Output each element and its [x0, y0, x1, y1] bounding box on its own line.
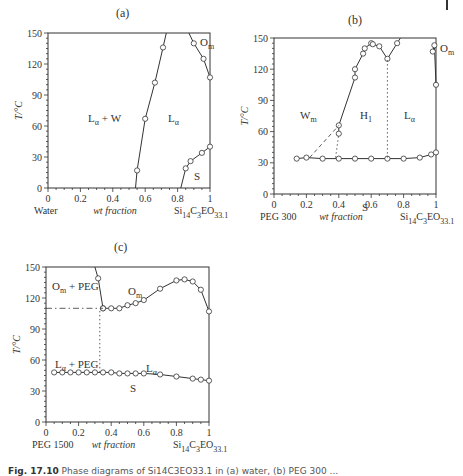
data-point-marker: [174, 278, 179, 283]
data-point-marker: [190, 376, 195, 381]
data-point-marker: [100, 370, 105, 375]
data-point-marker: [68, 370, 73, 375]
data-point-marker: [158, 286, 163, 291]
phase-diagram-c: 030609012015000.20.40.60.81T/°CPEG 1500w…: [0, 0, 463, 460]
caption-label: Fig. 17.10: [8, 466, 59, 476]
panel-c: (c) 030609012015000.20.40.60.81T/°CPEG 1…: [0, 0, 463, 460]
data-point-marker: [133, 371, 138, 376]
data-point-marker: [125, 303, 130, 308]
data-point-marker: [109, 306, 114, 311]
data-point-marker: [92, 370, 97, 375]
y-tick-label: 120: [25, 293, 40, 304]
data-point-marker: [84, 370, 89, 375]
phase-region-label: Lα: [146, 362, 158, 377]
data-point-marker: [174, 374, 179, 379]
phase-region-label: Om: [128, 285, 143, 300]
data-point-marker: [109, 370, 114, 375]
data-point-marker: [182, 277, 187, 282]
phase-region-label: Om + PEG: [52, 280, 99, 295]
figure-caption: Fig. 17.10 Phase diagrams of Si14C3EO33.…: [8, 466, 458, 476]
y-tick-label: 30: [30, 386, 40, 397]
data-point-marker: [198, 287, 203, 292]
data-point-marker: [52, 370, 57, 375]
data-point-marker: [76, 370, 81, 375]
phase-region-label: S: [130, 382, 136, 394]
x-axis-title: wt fraction: [92, 439, 136, 450]
x-tick-label: 0.8: [170, 427, 183, 438]
data-point-marker: [158, 372, 163, 377]
data-point-marker: [117, 371, 122, 376]
data-point-marker: [117, 306, 122, 311]
x-tick-label: 0.4: [105, 427, 118, 438]
data-point-marker: [198, 377, 203, 382]
y-axis-title: T/°C: [11, 335, 22, 354]
data-point-marker: [133, 301, 138, 306]
x-tick-label: 0.2: [72, 427, 85, 438]
x-axis-left-label: PEG 1500: [32, 439, 73, 450]
x-tick-label: 0: [44, 427, 49, 438]
data-point-marker: [125, 371, 130, 376]
y-tick-label: 60: [30, 355, 40, 366]
y-tick-label: 150: [25, 262, 40, 273]
y-tick-label: 0: [35, 417, 40, 428]
caption-text: Phase diagrams of Si14C3EO33.1 in (a) wa…: [62, 466, 339, 476]
data-point-marker: [206, 309, 211, 314]
x-tick-label: 0.6: [138, 427, 151, 438]
x-axis-right-label: Si14C3EO33.1: [173, 439, 227, 454]
y-tick-label: 90: [30, 324, 40, 335]
data-point-marker: [206, 378, 211, 383]
data-point-marker: [190, 279, 195, 284]
x-tick-label: 1: [207, 427, 212, 438]
